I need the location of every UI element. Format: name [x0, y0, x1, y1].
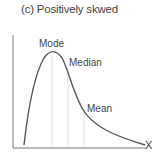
mean-label: Mean	[87, 103, 112, 114]
skewed-distribution-plot	[0, 0, 161, 162]
median-label: Median	[69, 57, 102, 68]
mode-label: Mode	[39, 38, 64, 49]
x-axis-label: X	[145, 139, 152, 151]
